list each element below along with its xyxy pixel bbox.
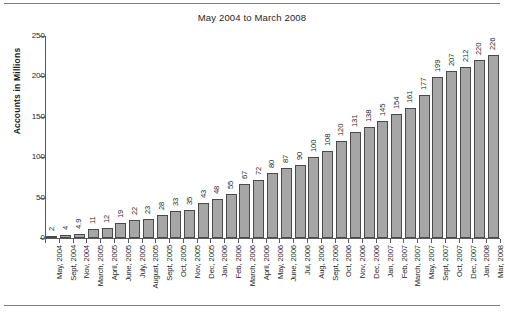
bar-slot[interactable]: 19 <box>114 36 128 238</box>
bar-value-label: 131 <box>351 115 360 127</box>
bar-slot[interactable]: 207 <box>445 36 459 238</box>
bar[interactable] <box>267 173 278 238</box>
x-tick-mark <box>500 239 501 243</box>
x-tick-mark <box>417 239 418 243</box>
bar-slot[interactable]: 4.9 <box>73 36 87 238</box>
bar[interactable] <box>460 67 471 238</box>
bar-slot[interactable]: 12 <box>100 36 114 238</box>
bar-slot[interactable]: 80 <box>266 36 280 238</box>
bar-value-label: 2 <box>47 227 56 231</box>
bar-value-label: 72 <box>254 167 263 175</box>
x-tick-mark <box>486 239 487 243</box>
bar-slot[interactable]: 22 <box>128 36 142 238</box>
bar[interactable] <box>391 114 402 238</box>
x-tick-label: June, 2006 <box>289 245 298 282</box>
bar[interactable] <box>226 194 237 238</box>
x-tick-mark <box>183 239 184 243</box>
bar-slot[interactable]: 220 <box>472 36 486 238</box>
bar[interactable] <box>102 228 113 238</box>
x-tick-mark <box>431 239 432 243</box>
bar-slot[interactable]: 28 <box>155 36 169 238</box>
bar-slot[interactable]: 11 <box>86 36 100 238</box>
bar-slot[interactable]: 23 <box>142 36 156 238</box>
bar-value-label: 100 <box>309 140 318 152</box>
bar[interactable] <box>184 210 195 238</box>
bar-slot[interactable]: 35 <box>183 36 197 238</box>
bar[interactable] <box>157 215 168 238</box>
bar-slot[interactable]: 177 <box>417 36 431 238</box>
bar-slot[interactable]: 154 <box>390 36 404 238</box>
bar-value-label: 138 <box>364 109 373 121</box>
bar[interactable] <box>74 234 85 238</box>
bar[interactable] <box>212 199 223 238</box>
bar[interactable] <box>295 165 306 238</box>
bar[interactable] <box>419 95 430 238</box>
bar[interactable] <box>129 220 140 238</box>
x-tick-mark <box>100 239 101 243</box>
bar-value-label: 212 <box>461 49 470 61</box>
bar-slot[interactable]: 72 <box>252 36 266 238</box>
bar-slot[interactable]: 4 <box>59 36 73 238</box>
bar[interactable] <box>377 121 388 238</box>
bar-value-label: 11 <box>89 216 98 224</box>
bar[interactable] <box>88 229 99 238</box>
bar[interactable] <box>364 127 375 239</box>
x-tick-label: Dec, 2006 <box>372 245 381 279</box>
bar-slot[interactable]: 55 <box>224 36 238 238</box>
x-tick-label: August, 2005 <box>151 245 160 289</box>
x-tick-mark <box>307 239 308 243</box>
x-tick-mark <box>155 239 156 243</box>
bar[interactable] <box>170 211 181 238</box>
bar[interactable] <box>239 184 250 238</box>
x-tick-mark <box>142 239 143 243</box>
x-tick-mark <box>472 239 473 243</box>
bar[interactable] <box>115 223 126 238</box>
x-tick-label: June, 2005 <box>124 245 133 282</box>
bar[interactable] <box>488 55 499 238</box>
bar-slot[interactable]: 131 <box>348 36 362 238</box>
bar[interactable] <box>405 108 416 238</box>
bar-value-label: 55 <box>226 180 235 188</box>
bar-slot[interactable]: 90 <box>293 36 307 238</box>
bar[interactable] <box>281 168 292 238</box>
bar-value-label: 35 <box>185 196 194 204</box>
bar-slot[interactable]: 108 <box>321 36 335 238</box>
bar-slot[interactable]: 120 <box>335 36 349 238</box>
bar-slot[interactable]: 145 <box>376 36 390 238</box>
bar-value-label: 220 <box>475 43 484 55</box>
x-tick-label: Sept, 2005 <box>165 245 174 281</box>
x-tick-label: Sept, 2007 <box>441 245 450 281</box>
bar-slot[interactable]: 161 <box>403 36 417 238</box>
bar-slot[interactable]: 199 <box>431 36 445 238</box>
bar-slot[interactable]: 43 <box>197 36 211 238</box>
y-tick-group: 150 <box>0 117 45 118</box>
bar[interactable] <box>446 71 457 238</box>
bar[interactable] <box>322 151 333 238</box>
x-tick-label: Nov, 2004 <box>82 245 91 278</box>
bar-slot[interactable]: 2 <box>45 36 59 238</box>
bar-slot[interactable]: 48 <box>210 36 224 238</box>
bar-slot[interactable]: 67 <box>238 36 252 238</box>
bar-value-label: 28 <box>157 202 166 210</box>
bar[interactable] <box>308 157 319 238</box>
x-tick-mark <box>114 239 115 243</box>
bar[interactable] <box>336 141 347 238</box>
bar-slot[interactable]: 212 <box>459 36 473 238</box>
bar[interactable] <box>350 132 361 238</box>
bar[interactable] <box>46 236 57 238</box>
bar-slot[interactable]: 33 <box>169 36 183 238</box>
bar-slot[interactable]: 100 <box>307 36 321 238</box>
bar-slot[interactable]: 226 <box>486 36 500 238</box>
bar-value-label: 4 <box>61 226 70 230</box>
bar[interactable] <box>253 180 264 238</box>
bar[interactable] <box>198 203 209 238</box>
bar[interactable] <box>60 235 71 238</box>
bar-value-label: 23 <box>144 206 153 214</box>
bar-slot[interactable]: 138 <box>362 36 376 238</box>
bar-value-label: 226 <box>488 38 497 50</box>
bar[interactable] <box>432 77 443 238</box>
x-tick-label: Dec, 2007 <box>469 245 478 279</box>
bar[interactable] <box>474 60 485 238</box>
bar-slot[interactable]: 87 <box>279 36 293 238</box>
bar[interactable] <box>143 219 154 238</box>
